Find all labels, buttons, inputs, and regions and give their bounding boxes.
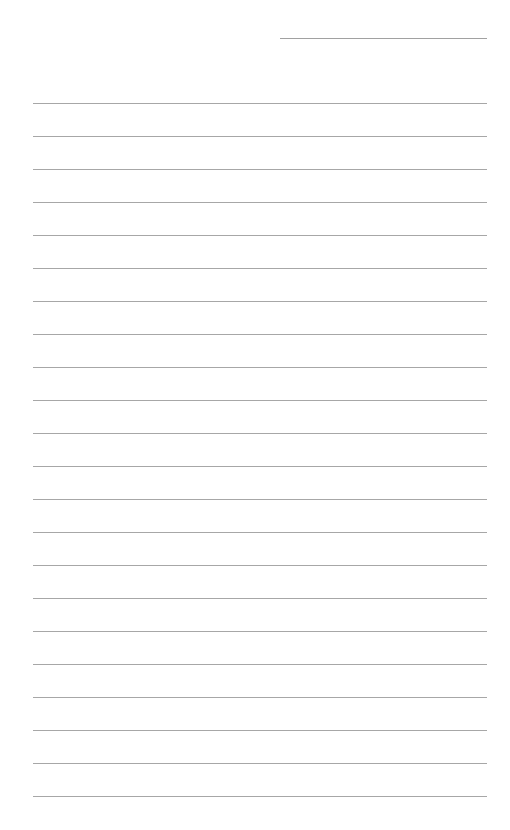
ruled-line: [33, 532, 487, 533]
lined-paper-page: [0, 0, 510, 830]
ruled-line: [33, 169, 487, 170]
ruled-line: [33, 664, 487, 665]
ruled-line: [33, 631, 487, 632]
ruled-line: [33, 400, 487, 401]
ruled-line: [33, 334, 487, 335]
ruled-line: [33, 136, 487, 137]
ruled-line: [33, 433, 487, 434]
ruled-line: [33, 268, 487, 269]
ruled-line: [33, 598, 487, 599]
ruled-line: [33, 367, 487, 368]
ruled-line: [33, 466, 487, 467]
ruled-line: [33, 103, 487, 104]
ruled-line: [33, 301, 487, 302]
ruled-line: [33, 565, 487, 566]
ruled-line: [33, 796, 487, 797]
ruled-line: [33, 235, 487, 236]
ruled-line: [33, 763, 487, 764]
header-rule-line: [280, 38, 487, 39]
ruled-line: [33, 499, 487, 500]
ruled-line: [33, 730, 487, 731]
ruled-line: [33, 202, 487, 203]
ruled-line: [33, 697, 487, 698]
